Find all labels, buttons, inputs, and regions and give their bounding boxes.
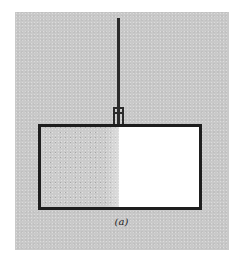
rod-clamp-collar bbox=[113, 107, 124, 124]
suspension-rod bbox=[117, 18, 120, 110]
figure-label: (a) bbox=[0, 216, 243, 227]
filled-left-half bbox=[41, 127, 119, 207]
figure: (a) bbox=[0, 0, 243, 264]
collar-core bbox=[117, 107, 120, 124]
collar-right-jaw bbox=[122, 107, 124, 124]
container-box bbox=[38, 124, 202, 210]
collar-left-jaw bbox=[113, 107, 115, 124]
